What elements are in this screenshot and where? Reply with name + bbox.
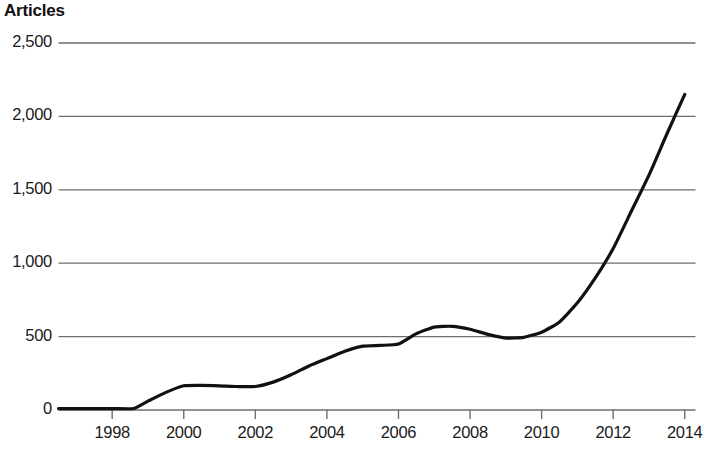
x-axis-tick-label: 2012 (595, 423, 631, 442)
x-axis-labels: 199820002002200420062008201020122014 (0, 0, 713, 449)
x-axis-tick-label: 2000 (166, 423, 202, 442)
x-axis-tick-label: 2004 (309, 423, 345, 442)
x-axis-tick-label: 2014 (667, 423, 703, 442)
x-axis-tick-label: 2008 (452, 423, 488, 442)
x-axis-tick-label: 2002 (238, 423, 274, 442)
x-axis-tick-label: 1998 (94, 423, 130, 442)
x-axis-tick-label: 2010 (524, 423, 560, 442)
x-axis-tick-label: 2006 (381, 423, 417, 442)
chart-figure: Articles 2,5002,0001,5001,0005000 199820… (0, 0, 713, 449)
